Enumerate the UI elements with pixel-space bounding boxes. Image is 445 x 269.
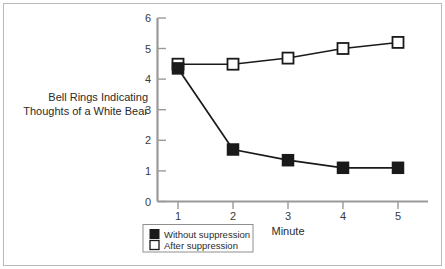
legend-swatch-without-suppression [150, 230, 159, 239]
y-tick-label-5: 5 [145, 43, 151, 55]
y-tick-label-4: 4 [145, 73, 151, 85]
y-axis-title-line1: Bell Rings Indicating [48, 91, 148, 103]
legend-label-after-suppression: After suppression [164, 240, 238, 251]
legend-label-without-suppression: Without suppression [164, 229, 250, 240]
marker-without-3 [283, 155, 294, 166]
x-tick-label-3: 3 [285, 210, 291, 222]
x-tick-label-4: 4 [340, 210, 346, 222]
marker-after-4 [338, 43, 349, 54]
x-tick-label-1: 1 [175, 210, 181, 222]
marker-after-3 [283, 53, 294, 64]
y-axis-ticks [158, 18, 167, 202]
x-axis-title: Minute [271, 225, 304, 237]
marker-without-1 [173, 63, 184, 74]
y-tick-label-1: 1 [145, 165, 151, 177]
y-tick-label-0: 0 [145, 196, 151, 208]
x-axis-ticks [178, 202, 398, 210]
series-without-suppression-line [178, 68, 398, 167]
y-axis-title-line2: Thoughts of a White Bear [23, 105, 148, 117]
marker-after-5 [393, 37, 404, 48]
chart-figure: 0 1 2 3 4 5 6 1 2 3 4 5 Minute Bell Ring… [0, 0, 445, 269]
line-chart: 0 1 2 3 4 5 6 1 2 3 4 5 Minute Bell Ring… [0, 0, 445, 269]
x-tick-label-5: 5 [395, 210, 401, 222]
marker-without-4 [338, 162, 349, 173]
x-tick-label-2: 2 [230, 210, 236, 222]
marker-after-2 [228, 59, 239, 70]
y-tick-label-2: 2 [145, 134, 151, 146]
series-without-suppression-markers [173, 63, 404, 173]
y-tick-label-6: 6 [145, 12, 151, 24]
marker-without-5 [393, 162, 404, 173]
chart-legend: Without suppression After suppression [143, 225, 253, 253]
legend-swatch-after-suppression [150, 241, 159, 250]
marker-without-2 [228, 144, 239, 155]
